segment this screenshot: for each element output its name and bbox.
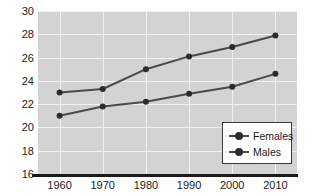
data-point-females-2010 bbox=[272, 32, 278, 38]
legend-marker-icon-males bbox=[229, 147, 249, 157]
data-point-females-1960 bbox=[57, 90, 63, 96]
y-tick-label-22: 22 bbox=[2, 99, 34, 110]
series-line-males bbox=[60, 74, 276, 116]
chart-legend: Females Males bbox=[222, 122, 292, 164]
data-point-females-1990 bbox=[186, 53, 192, 59]
data-point-females-1970 bbox=[100, 86, 106, 92]
legend-marker-icon-females bbox=[229, 131, 249, 141]
y-tick-label-28: 28 bbox=[2, 29, 34, 40]
data-point-males-1980 bbox=[143, 99, 149, 105]
y-tick-label-16: 16 bbox=[2, 169, 34, 180]
data-point-males-1970 bbox=[100, 103, 106, 109]
data-point-males-2000 bbox=[229, 84, 235, 90]
y-tick-label-30: 30 bbox=[2, 6, 34, 17]
data-point-females-1980 bbox=[143, 66, 149, 72]
y-tick-label-24: 24 bbox=[2, 76, 34, 87]
data-point-males-1960 bbox=[57, 113, 63, 119]
x-tick-label-1990: 1990 bbox=[166, 180, 212, 191]
y-axis-tick-labels: 1618202224262830 bbox=[0, 0, 34, 196]
y-tick-label-18: 18 bbox=[2, 146, 34, 157]
x-tick-label-2000: 2000 bbox=[209, 180, 255, 191]
legend-label-males: Males bbox=[253, 147, 281, 158]
data-point-males-2010 bbox=[272, 71, 278, 77]
x-tick-label-2010: 2010 bbox=[252, 180, 298, 191]
data-point-males-1990 bbox=[186, 91, 192, 97]
x-axis-line bbox=[32, 174, 298, 177]
x-tick-label-1960: 1960 bbox=[37, 180, 83, 191]
y-tick-label-20: 20 bbox=[2, 122, 34, 133]
legend-item-males: Males bbox=[229, 145, 281, 159]
legend-label-females: Females bbox=[253, 131, 293, 142]
line-chart: 1618202224262830 19601970198019902000201… bbox=[0, 0, 313, 196]
x-tick-label-1970: 1970 bbox=[80, 180, 126, 191]
y-tick-label-26: 26 bbox=[2, 53, 34, 64]
x-tick-label-1980: 1980 bbox=[123, 180, 169, 191]
data-point-females-2000 bbox=[229, 44, 235, 50]
legend-item-females: Females bbox=[229, 129, 293, 143]
